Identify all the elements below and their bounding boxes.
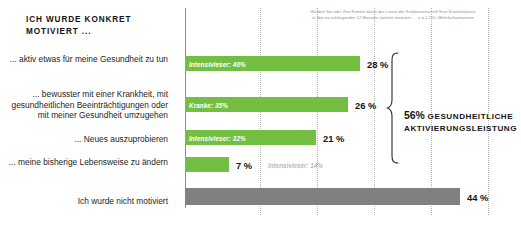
bar-row: 44 % (185, 188, 460, 205)
category-label: ... aktiv etwas für meine Gesundheit zu … (0, 54, 172, 65)
category-label: ... Neues auszuprobieren (0, 134, 172, 145)
chart-title: ICH WURDE KONKRET MOTIVIERT ... (26, 14, 131, 37)
brace-bracket (386, 52, 402, 164)
gridline (374, 8, 375, 215)
category-label: Ich wurde nicht motiviert (0, 196, 172, 207)
bar-segment-label: Intensivleser: 14% (268, 161, 323, 168)
bar-row: 7 % Intensivleser: 14% (185, 157, 229, 172)
bar-value-label: 44 % (467, 191, 488, 202)
bar-value-label: 26 % (355, 99, 376, 110)
bar-value-label: 21 % (323, 132, 344, 143)
bar-fill (185, 157, 229, 172)
bar-segment-label: Kranke: 35% (189, 101, 228, 108)
chart-root: ICH WURDE KONKRET MOTIVIERT ... Wurden S… (0, 0, 521, 225)
bar-segment-label: Intensivleser: 40% (189, 60, 246, 67)
category-label: ... meine bisherige Lebensweise zu änder… (0, 157, 172, 168)
brace-annotation: 56% GESUNDHEITLICHE AKTIVIERUNGSLEISTUNG (404, 98, 521, 135)
brace-icon (386, 52, 402, 164)
category-label: ... bewusster mit einer Krankheit, mit g… (0, 89, 172, 121)
bar-row: Intensivleser: 40% 28 % (185, 56, 360, 71)
bar-fill (185, 188, 460, 205)
bar-row: Intensivleser: 32% 21 % (185, 130, 316, 145)
bar-segment-label: Intensivleser: 32% (189, 134, 246, 141)
bar-value-label: 7 % (236, 159, 252, 170)
brace-annotation-value: 56% (404, 110, 425, 121)
bar-row: Kranke: 35% 26 % (185, 97, 348, 112)
